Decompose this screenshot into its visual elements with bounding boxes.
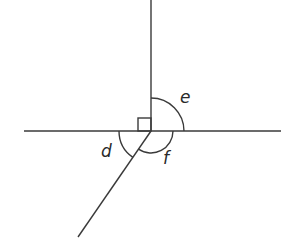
angle-diagram (0, 0, 296, 243)
diagonal-line (78, 131, 151, 237)
angle-label-d: d (101, 143, 112, 160)
angle-label-f: f (163, 150, 169, 167)
right-angle-marker (138, 118, 151, 131)
angle-label-e: e (180, 89, 190, 106)
angle-arc-d (119, 131, 133, 157)
